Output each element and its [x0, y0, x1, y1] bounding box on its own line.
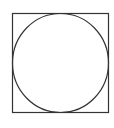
inscribed-circle-diagram: [0, 0, 114, 128]
circle-shape: [13, 14, 109, 113]
